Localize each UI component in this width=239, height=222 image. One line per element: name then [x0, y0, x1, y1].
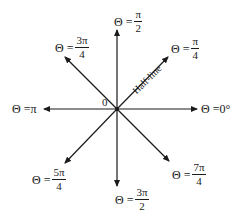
ray-3pi4 — [65, 57, 117, 109]
label-theta-pi: Θ = π — [12, 103, 37, 115]
label-theta-7pi4: Θ = 7π4 — [172, 162, 206, 187]
label-theta-5pi4: Θ = 5π4 — [32, 167, 66, 192]
origin-label: 0 — [102, 96, 108, 108]
label-theta-0: Θ = 0° — [201, 103, 230, 115]
ray-7pi4 — [117, 109, 169, 161]
label-theta-pi4: Θ = π4 — [171, 36, 199, 61]
label-theta-3pi4: Θ = 3π4 — [55, 35, 89, 60]
label-theta-3pi2: Θ = 3π2 — [115, 187, 149, 212]
ray-5pi4 — [65, 109, 117, 163]
label-theta-pi2: Θ = π2 — [114, 9, 142, 34]
origin-point — [115, 107, 119, 111]
